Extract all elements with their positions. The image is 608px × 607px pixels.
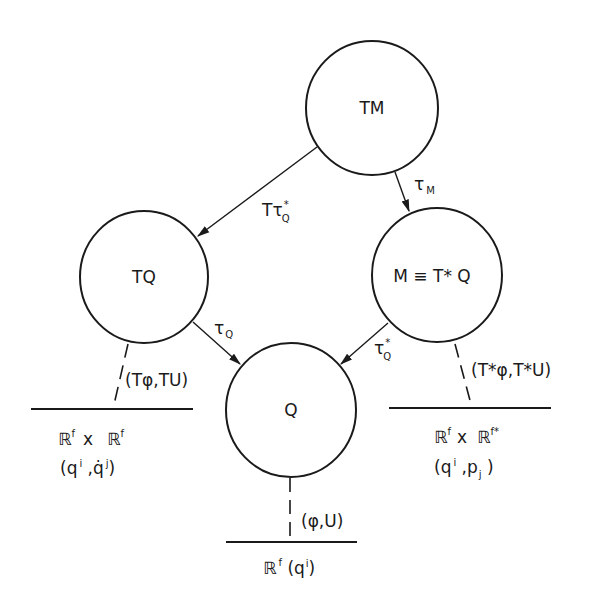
node-TM: TM	[306, 41, 438, 175]
edge-TM-M-arrow	[395, 172, 409, 211]
node-TQ-label: TQ	[131, 267, 156, 287]
chart-TQ: (Tφ,TU) ℝfxℝf (qi ,q̇j)	[31, 344, 193, 478]
node-M: M ≡ T* Q	[372, 208, 502, 342]
node-TM-label: TM	[358, 98, 384, 118]
chart-M-coords-label: (qi ,pj )	[434, 457, 494, 480]
node-Q-label: Q	[284, 400, 297, 420]
chart-M-map-label: (T*φ,T*U)	[471, 360, 551, 380]
node-Q: Q	[226, 343, 356, 477]
chart-M-dashed-map	[455, 344, 472, 408]
edge-label-TTauStarQ: Tτ*Q	[261, 199, 290, 224]
chart-Q-map-label: (φ,U)	[301, 511, 343, 531]
edge-label-tauStarQ: τ*Q	[374, 337, 391, 362]
chart-Q-space-label: ℝf (qi)	[263, 557, 315, 578]
chart-M-space-label: ℝfxℝf*	[434, 426, 499, 447]
chart-M: (T*φ,T*U) ℝfxℝf* (qi ,pj )	[389, 344, 551, 480]
chart-Q: (φ,U) ℝf (qi)	[226, 478, 357, 578]
node-M-label: M ≡ T* Q	[393, 266, 470, 286]
node-TQ: TQ	[80, 211, 208, 343]
chart-TQ-coords-label: (qi ,q̇j)	[60, 458, 115, 478]
chart-TQ-map-label: (Tφ,TU)	[125, 370, 188, 390]
edge-label-tauM: τM	[414, 174, 435, 196]
diagram-canvas: TM TQ M ≡ T* Q Q Tτ*Q τM τQ τ*Q (Tφ,TU) …	[0, 0, 608, 607]
edge-TM-TQ-arrow	[198, 147, 317, 236]
chart-TQ-space-label: ℝfxℝf	[58, 428, 125, 449]
edge-label-tauQ: τQ	[214, 318, 233, 340]
